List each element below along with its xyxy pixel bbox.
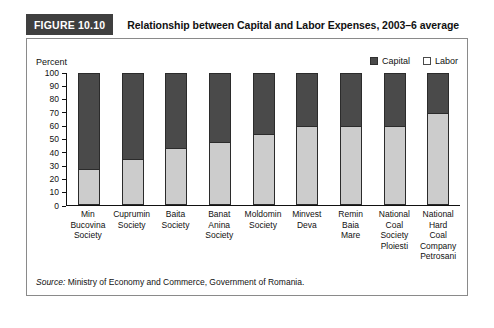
x-axis-label-line: Baia xyxy=(330,220,372,231)
y-axis-tick-label: 10 xyxy=(50,188,62,197)
x-axis-label: MinBucovinaSociety xyxy=(66,209,110,241)
x-axis-label: NationalHardCoalCompanyPetrosani xyxy=(416,209,460,262)
stacked-bar xyxy=(122,73,144,205)
stacked-bar xyxy=(165,73,187,205)
x-axis-label-line: Society xyxy=(155,220,197,231)
x-axis-label-line: Moldomin xyxy=(242,209,284,220)
x-axis-label-line: Anina xyxy=(198,220,240,231)
bar-segment-labor xyxy=(210,142,230,204)
x-axis-label-line: National xyxy=(373,209,415,220)
x-axis-label: CupruminSociety xyxy=(110,209,154,230)
bar-slot xyxy=(416,73,460,205)
x-axis-label-line: Deva xyxy=(286,220,328,231)
y-axis-tick-label: 30 xyxy=(50,162,62,171)
x-axis-label-line: Ploiesti xyxy=(373,241,415,252)
x-axis-label-line: Society xyxy=(198,230,240,241)
bar-segment-labor xyxy=(254,134,274,204)
x-axis-label: NationalCoalSocietyPloiesti xyxy=(372,209,416,251)
y-axis-tick-label: 60 xyxy=(50,122,62,131)
legend-label-capital: Capital xyxy=(382,56,410,66)
y-axis-tick-label: 80 xyxy=(50,95,62,104)
plot-area xyxy=(66,73,460,206)
figure-container: FIGURE 10.10 Relationship between Capita… xyxy=(0,0,494,328)
x-axis-label-line: Minvest xyxy=(286,209,328,220)
x-axis-label-line: Coal xyxy=(373,220,415,231)
bar-slot xyxy=(373,73,417,205)
x-axis-label-line: Society xyxy=(67,230,109,241)
x-axis-label-line: Coal xyxy=(417,230,459,241)
y-axis-tick-label: 90 xyxy=(50,82,62,91)
bar-segment-labor xyxy=(341,126,361,204)
y-axis-tick-label: 100 xyxy=(45,69,62,78)
x-axis-label: BanatAninaSociety xyxy=(197,209,241,241)
labor-swatch-icon xyxy=(423,57,431,65)
y-axis-unit-label: Percent xyxy=(36,57,67,67)
x-axis-label-line: Remin xyxy=(330,209,372,220)
figure-number-tab: FIGURE 10.10 xyxy=(26,14,113,35)
bar-slot xyxy=(285,73,329,205)
stacked-bar xyxy=(253,73,275,205)
bar-slot xyxy=(67,73,111,205)
x-axis-label-line: Cuprumin xyxy=(111,209,153,220)
stacked-bar xyxy=(78,73,100,205)
stacked-bar xyxy=(296,73,318,205)
bar-segment-labor xyxy=(297,126,317,204)
x-axis-label-line: Society xyxy=(373,230,415,241)
legend-label-labor: Labor xyxy=(435,56,458,66)
stacked-bar xyxy=(427,73,449,205)
x-axis-label-line: Hard xyxy=(417,220,459,231)
bar-slot xyxy=(111,73,155,205)
y-axis-tick-label: 40 xyxy=(50,149,62,158)
x-axis-label-line: Society xyxy=(242,220,284,231)
figure-title: Relationship between Capital and Labor E… xyxy=(113,14,459,35)
legend-item-capital: Capital xyxy=(370,56,410,66)
source-text: Ministry of Economy and Commerce, Govern… xyxy=(65,277,304,287)
stacked-bar xyxy=(384,73,406,205)
bar-slot xyxy=(242,73,286,205)
bar-slot xyxy=(154,73,198,205)
x-axis-label-line: Petrosani xyxy=(417,251,459,262)
figure-header: FIGURE 10.10 Relationship between Capita… xyxy=(26,14,470,35)
y-axis-tick-label: 20 xyxy=(50,175,62,184)
source-label: Source: xyxy=(36,277,65,287)
x-axis-label-line: Mare xyxy=(330,230,372,241)
bar-slot xyxy=(329,73,373,205)
bar-segment-labor xyxy=(79,169,99,204)
x-axis-label: ReminBaiaMare xyxy=(329,209,373,241)
bar-slot xyxy=(198,73,242,205)
x-axis-label: BaitaSociety xyxy=(154,209,198,230)
x-axis-label: MinvestDeva xyxy=(285,209,329,230)
stacked-bar xyxy=(209,73,231,205)
x-axis-label: MoldominSociety xyxy=(241,209,285,230)
x-axis-label-line: Min xyxy=(67,209,109,220)
x-axis-label-line: Bucovina xyxy=(67,220,109,231)
bar-group xyxy=(67,73,460,205)
legend-item-labor: Labor xyxy=(423,56,458,66)
bar-segment-labor xyxy=(123,159,143,205)
y-axis: 0102030405060708090100 xyxy=(36,73,66,206)
x-axis-label-line: Banat xyxy=(198,209,240,220)
x-axis-label-line: National xyxy=(417,209,459,220)
y-axis-tick-label: 70 xyxy=(50,109,62,118)
chart-legend: Capital Labor xyxy=(370,56,458,66)
x-axis-label-line: Baita xyxy=(155,209,197,220)
bar-segment-labor xyxy=(385,126,405,204)
y-axis-tick-label: 0 xyxy=(54,202,62,211)
source-note: Source: Ministry of Economy and Commerce… xyxy=(36,277,304,287)
bar-segment-labor xyxy=(166,148,186,204)
capital-swatch-icon xyxy=(370,57,378,65)
x-axis-label-line: Society xyxy=(111,220,153,231)
stacked-bar xyxy=(340,73,362,205)
bar-segment-labor xyxy=(428,113,448,204)
plot-wrapper: 0102030405060708090100 xyxy=(36,73,460,206)
x-axis-label-line: Company xyxy=(417,241,459,252)
x-axis-labels: MinBucovinaSocietyCupruminSocietyBaitaSo… xyxy=(66,209,460,262)
y-axis-tick-label: 50 xyxy=(50,135,62,144)
